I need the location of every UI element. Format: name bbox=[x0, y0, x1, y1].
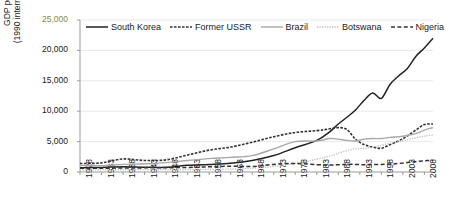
series-line-former-ussr bbox=[80, 124, 433, 164]
